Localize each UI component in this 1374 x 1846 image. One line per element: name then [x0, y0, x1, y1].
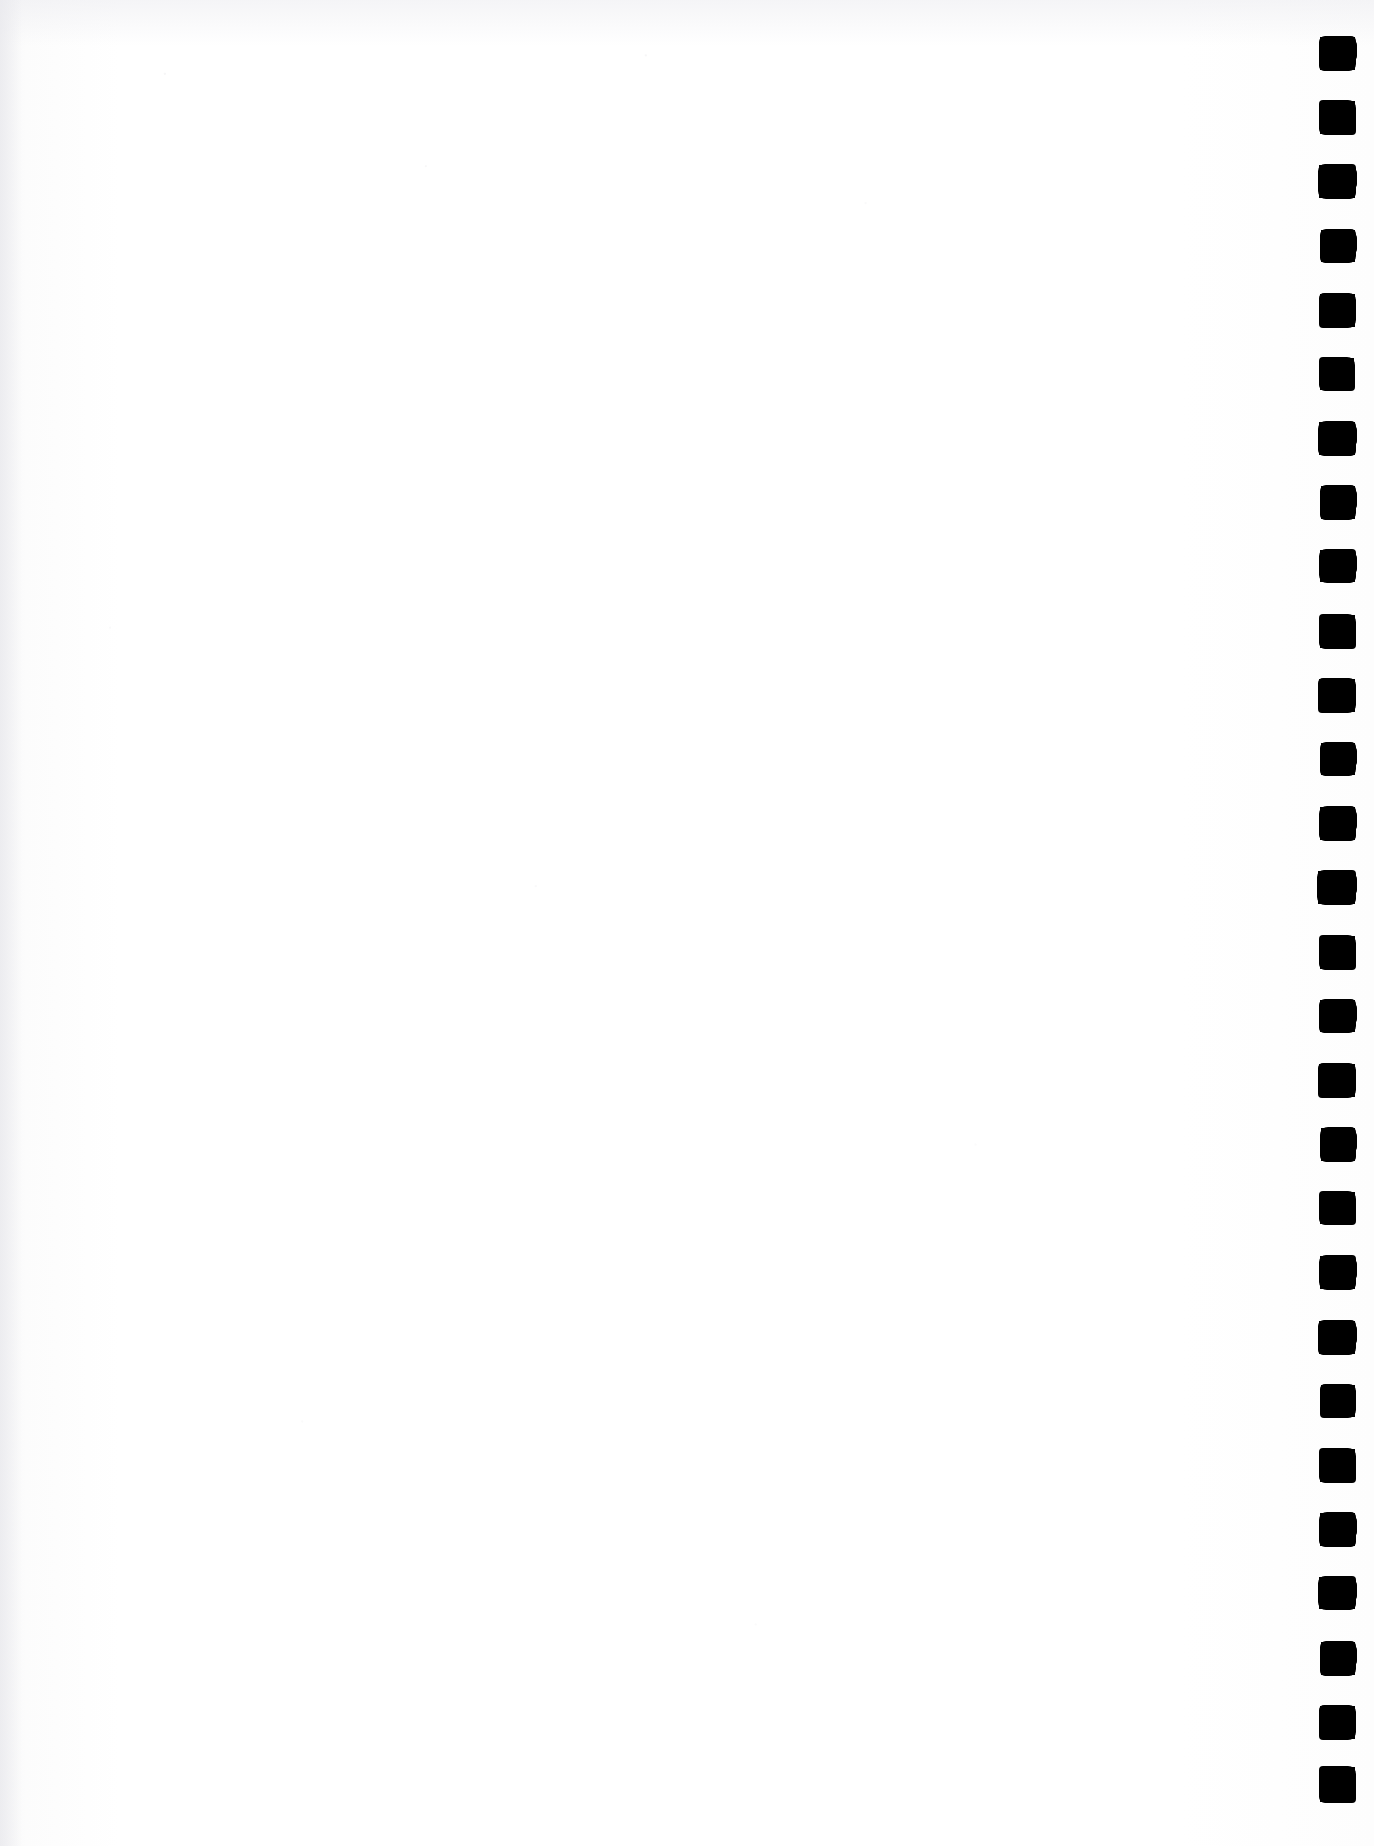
register-mark — [1321, 1128, 1355, 1161]
register-mark — [1320, 358, 1354, 390]
register-mark — [1321, 743, 1355, 775]
register-mark — [1320, 37, 1355, 70]
scanned-page — [0, 0, 1374, 1846]
register-mark — [1320, 807, 1355, 840]
register-mark — [1319, 1577, 1355, 1609]
register-mark — [1320, 1513, 1355, 1546]
left-scan-shadow — [0, 0, 22, 1846]
register-mark — [1320, 1767, 1355, 1802]
register-mark — [1319, 165, 1355, 198]
register-mark — [1319, 1064, 1355, 1097]
register-mark — [1318, 871, 1355, 904]
register-mark — [1321, 1642, 1355, 1675]
register-mark — [1321, 230, 1355, 262]
register-mark — [1319, 422, 1355, 455]
register-mark — [1320, 1706, 1355, 1739]
register-mark — [1320, 1192, 1355, 1224]
top-scan-shadow — [0, 0, 1374, 46]
register-mark — [1320, 1256, 1355, 1289]
register-mark — [1320, 1000, 1355, 1032]
register-mark — [1320, 550, 1355, 582]
register-mark — [1320, 936, 1355, 969]
register-mark-strip — [1300, 0, 1374, 1846]
scan-grain-texture — [0, 0, 1374, 1846]
register-mark — [1319, 679, 1355, 712]
register-mark — [1321, 1385, 1355, 1417]
register-mark — [1321, 486, 1355, 519]
register-mark — [1320, 101, 1355, 134]
register-mark — [1319, 1321, 1355, 1354]
register-mark — [1320, 615, 1355, 648]
register-mark — [1320, 294, 1355, 327]
register-mark — [1320, 1449, 1355, 1482]
